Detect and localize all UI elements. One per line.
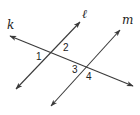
line-label-l: ℓ [82,7,87,21]
angle-label-3: 3 [72,64,78,75]
line-label-k: k [7,18,14,32]
line-k [10,36,133,86]
line-label-m: m [122,13,133,27]
diagram-canvas: k ℓ m 1 2 3 4 [0,0,140,115]
line-l [16,22,80,89]
angle-label-4: 4 [86,71,92,82]
angle-label-1: 1 [36,51,42,62]
angle-label-2: 2 [63,42,69,53]
